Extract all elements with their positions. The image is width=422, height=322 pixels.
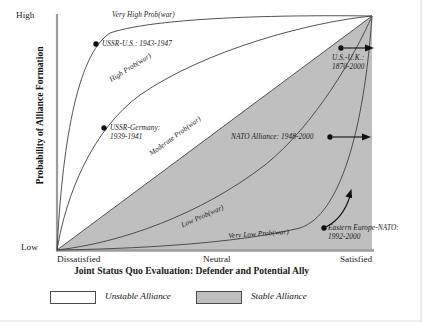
marker-ussr-us [93,41,98,46]
legend-label-unstable-alliance: Unstable Alliance [105,291,171,301]
y-tick-low: Low [21,242,38,252]
marker-nato [327,134,332,139]
annotation-ussr-us: USSR-U.S.: 1943-1947 [102,40,172,48]
x-axis-title: Joint Status Quo Evaluation: Defender an… [74,266,309,277]
x-tick-satisfied: Satisfied [340,254,372,264]
y-tick-high: High [16,10,34,20]
legend-swatch-unstable-alliance [50,291,96,304]
y-axis-title: Probability of Alliance Formation [34,21,45,211]
x-tick-neutral: Neutral [203,254,231,264]
legend-swatch-stable-alliance [196,291,242,304]
legend-label-stable-alliance: Stable Alliance [251,291,307,301]
marker-eastern-europe-nato [321,225,326,230]
alliance-formation-figure: Probability of Alliance Formation High L… [0,0,422,322]
x-tick-dissatisfied: Dissatisfied [57,254,100,264]
curve-label-very-high-prob-war: Very High Prob(war) [112,11,175,19]
annotation-nato-alliance: NATO Alliance: 1948-2000 [231,133,314,141]
marker-us-uk [338,45,343,50]
marker-ussr-germany [101,125,106,130]
